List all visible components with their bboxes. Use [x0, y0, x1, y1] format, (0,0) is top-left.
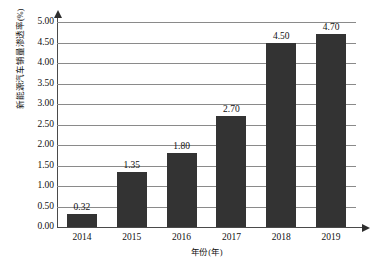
- gridline: [57, 43, 356, 44]
- gridline: [57, 63, 356, 64]
- plot-area: 0.321.351.802.704.504.70: [57, 22, 356, 227]
- x-tick-label: 2018: [259, 231, 303, 243]
- bar-value-label: 0.32: [62, 202, 102, 212]
- bar: [67, 214, 97, 227]
- y-tick-label: 3.50: [20, 79, 54, 89]
- bar: [167, 153, 197, 227]
- y-tick-label: 1.00: [20, 181, 54, 191]
- bar: [216, 116, 246, 227]
- bar-value-label: 4.70: [311, 22, 351, 32]
- x-tick-label: 2017: [209, 231, 253, 243]
- y-tick-label: 5.00: [20, 17, 54, 27]
- bar: [316, 34, 346, 227]
- bar: [117, 172, 147, 227]
- x-tick-label: 2015: [110, 231, 154, 243]
- bar-value-label: 4.50: [261, 31, 301, 41]
- y-axis-arrow-icon: [54, 10, 62, 18]
- bar-value-label: 1.35: [112, 160, 152, 170]
- y-tick-label: 1.50: [20, 161, 54, 171]
- y-axis-tick-labels: 0.000.501.001.502.002.503.003.504.004.50…: [16, 0, 54, 267]
- x-tick-label: 2014: [60, 231, 104, 243]
- gridline: [57, 84, 356, 85]
- y-tick-label: 4.00: [20, 58, 54, 68]
- x-tick-label: 2016: [160, 231, 204, 243]
- x-axis-tick-labels: 201420152016201720182019: [57, 231, 356, 247]
- gridline: [57, 166, 356, 167]
- bar-value-label: 1.80: [162, 141, 202, 151]
- bar-chart: 新能源汽车销量渗透率(%) 0.000.501.001.502.002.503.…: [0, 0, 380, 267]
- x-tick-label: 2019: [309, 231, 353, 243]
- gridline: [57, 145, 356, 146]
- gridline: [57, 186, 356, 187]
- bar-value-label: 2.70: [211, 104, 251, 114]
- y-tick-label: 3.00: [20, 99, 54, 109]
- y-tick-label: 2.50: [20, 120, 54, 130]
- bar: [266, 43, 296, 228]
- x-axis-line: [57, 227, 363, 228]
- y-tick-label: 0.00: [20, 222, 54, 232]
- x-axis-arrow-icon: [362, 224, 370, 232]
- y-tick-label: 0.50: [20, 202, 54, 212]
- gridline: [57, 104, 356, 105]
- x-axis-title: 年份(年): [57, 246, 356, 258]
- y-tick-label: 2.00: [20, 140, 54, 150]
- gridline: [57, 125, 356, 126]
- y-tick-label: 4.50: [20, 38, 54, 48]
